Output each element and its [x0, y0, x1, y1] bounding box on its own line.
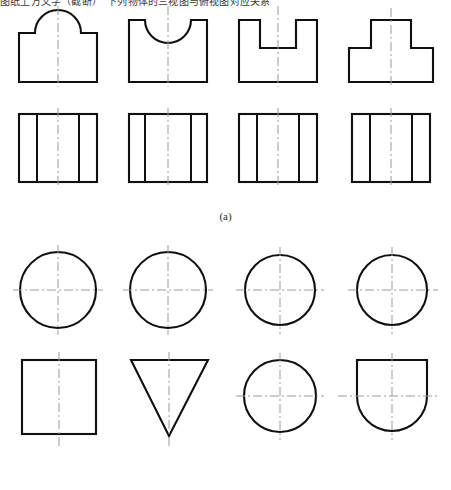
technical-drawing-figure: 图纸上方文字（截断） 下列物体的三视图与俯视图对应关系: [0, 0, 451, 490]
drawing-cell-a-top-2: [118, 106, 218, 186]
drawing-cell-b-front-2: [118, 350, 218, 450]
drawing-cell-b-front-1: [8, 350, 108, 450]
drawing-cell-a-top-3: [228, 106, 328, 186]
drawing-cell-b-top-4: [338, 242, 443, 342]
drawing-cell-a-front-1: [8, 4, 108, 88]
drawing-cell-a-top-4: [338, 106, 443, 186]
drawing-cell-a-front-2: [118, 4, 218, 88]
caption-a: (a): [0, 210, 451, 223]
drawing-cell-b-top-3: [228, 242, 328, 342]
drawing-cell-a-front-4: [338, 4, 443, 88]
drawing-cell-b-front-4: [338, 348, 450, 448]
drawing-cell-b-front-3: [228, 348, 328, 448]
figure-group-a: (a): [0, 0, 451, 230]
figure-group-b: (b): [0, 232, 451, 490]
drawing-cell-b-top-1: [8, 240, 108, 340]
drawing-cell-b-top-2: [118, 240, 218, 340]
drawing-cell-a-front-3: [228, 4, 328, 88]
drawing-cell-a-top-1: [8, 106, 108, 186]
